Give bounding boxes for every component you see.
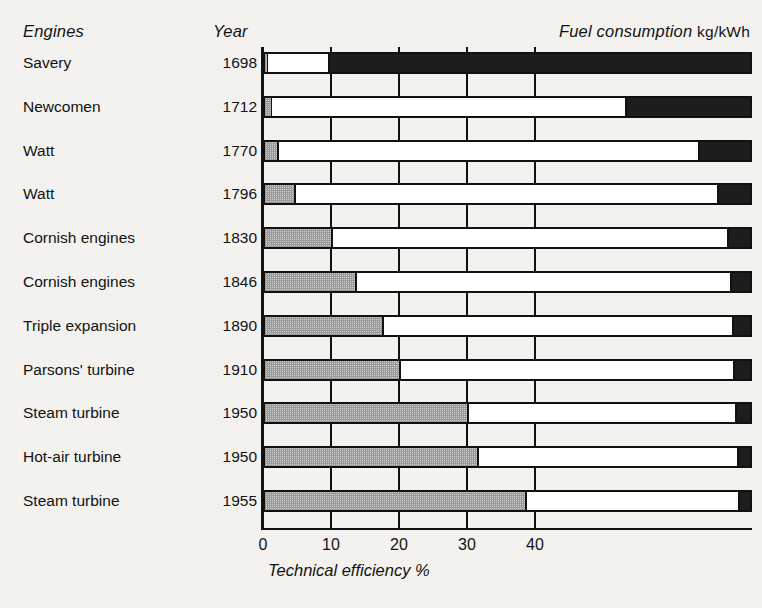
header-year: Year [213, 22, 248, 41]
bar-segment-efficiency [265, 492, 527, 510]
bar-segment-fuel [328, 54, 750, 72]
row-label: Watt [23, 141, 54, 161]
header-fuel-consumption-unit: kg/kWh [697, 23, 750, 40]
row-year: 1890 [213, 316, 257, 336]
bar-segment-efficiency [265, 54, 268, 72]
engine-efficiency-chart: Engines Year Fuel consumption kg/kWh Sav… [0, 0, 762, 608]
row-label: Cornish engines [23, 272, 135, 292]
minor-tick-40 [534, 474, 536, 489]
bar-segment-efficiency [265, 273, 357, 291]
bar-segment-efficiency [265, 317, 384, 335]
bar-row[interactable] [263, 446, 752, 468]
plot-area [263, 47, 752, 530]
row-label: Hot-air turbine [23, 447, 121, 467]
bar-segment-efficiency [265, 448, 479, 466]
minor-tick-30 [466, 387, 468, 402]
row-year: 1846 [213, 272, 257, 292]
minor-tick-10 [330, 211, 332, 226]
x-axis-title: Technical efficiency % [268, 561, 430, 580]
minor-tick-20 [398, 299, 400, 314]
row-label: Savery [23, 53, 71, 73]
bar-row[interactable] [263, 315, 752, 337]
bar-segment-efficiency [265, 142, 279, 160]
bar-segment-fuel [698, 142, 750, 160]
row-label: Newcomen [23, 97, 101, 117]
bar-row[interactable] [263, 227, 752, 249]
bar-segment-fuel [735, 404, 750, 422]
row-label: Steam turbine [23, 491, 120, 511]
bar-segment-efficiency [265, 229, 333, 247]
row-label: Steam turbine [23, 403, 120, 423]
bar-row[interactable] [263, 271, 752, 293]
bar-segment-fuel [625, 98, 750, 116]
bar-row[interactable] [263, 359, 752, 381]
header-engines: Engines [23, 22, 84, 41]
bar-segment-efficiency [265, 361, 401, 379]
bar-segment-fuel [733, 361, 750, 379]
bar-segment-fuel [727, 229, 750, 247]
row-label: Parsons' turbine [23, 360, 135, 380]
row-year: 1830 [213, 228, 257, 248]
bar-segment-efficiency [265, 185, 296, 203]
bar-row[interactable] [263, 52, 752, 74]
row-label: Cornish engines [23, 228, 135, 248]
row-year: 1796 [213, 184, 257, 204]
bar-row[interactable] [263, 183, 752, 205]
bar-row[interactable] [263, 490, 752, 512]
bar-row[interactable] [263, 140, 752, 162]
bar-segment-fuel [717, 185, 750, 203]
bar-segment-fuel [737, 448, 750, 466]
bar-segment-fuel [730, 273, 750, 291]
bar-segment-efficiency [265, 98, 272, 116]
row-year: 1950 [213, 447, 257, 467]
header-fuel-consumption: Fuel consumption kg/kWh [559, 22, 750, 41]
row-label: Triple expansion [23, 316, 136, 336]
bar-segment-fuel [732, 317, 750, 335]
row-label: Watt [23, 184, 54, 204]
x-axis-spine [261, 528, 752, 531]
row-year: 1955 [213, 491, 257, 511]
x-tick-label-30: 30 [458, 536, 476, 554]
row-year: 1698 [213, 53, 257, 73]
row-year: 1910 [213, 360, 257, 380]
bar-segment-fuel [738, 492, 750, 510]
bar-row[interactable] [263, 402, 752, 424]
row-year: 1770 [213, 141, 257, 161]
x-tick-label-40: 40 [526, 536, 544, 554]
x-tick-label-10: 10 [322, 536, 340, 554]
bar-segment-efficiency [265, 404, 469, 422]
row-year: 1712 [213, 97, 257, 117]
x-tick-label-0: 0 [259, 536, 268, 554]
bar-row[interactable] [263, 96, 752, 118]
header-fuel-consumption-text: Fuel consumption [559, 22, 692, 40]
row-year: 1950 [213, 403, 257, 423]
x-tick-label-20: 20 [390, 536, 408, 554]
